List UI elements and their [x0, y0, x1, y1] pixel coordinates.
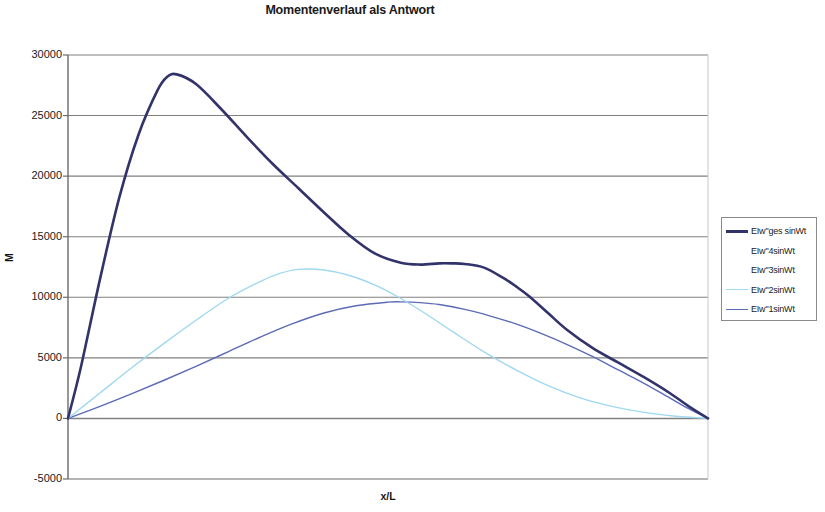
legend-item[interactable]: EIw"4sinWt	[722, 241, 818, 261]
legend-color-swatch	[726, 230, 748, 233]
plot-background	[68, 55, 708, 479]
legend-label: EIw"ges sinWt	[751, 226, 806, 236]
chart-legend: EIw"ges sinWtEIw"4sinWtEIw"3sinWtEIw"2si…	[721, 217, 817, 321]
legend-color-swatch	[726, 309, 748, 310]
legend-label: EIw"1sinWt	[751, 304, 795, 314]
chart-container: Momentenverlauf als Antwort M x/L 300002…	[0, 0, 825, 512]
legend-item[interactable]: EIw"3sinWt	[722, 260, 818, 280]
legend-label: EIw"4sinWt	[751, 246, 795, 256]
plot-area	[0, 0, 825, 512]
legend-label: EIw"3sinWt	[751, 265, 795, 275]
legend-item[interactable]: EIw"2sinWt	[722, 280, 818, 300]
legend-label: EIw"2sinWt	[751, 285, 795, 295]
legend-item[interactable]: EIw"1sinWt	[722, 299, 818, 319]
legend-color-swatch	[726, 289, 748, 290]
legend-item[interactable]: EIw"ges sinWt	[722, 221, 818, 241]
